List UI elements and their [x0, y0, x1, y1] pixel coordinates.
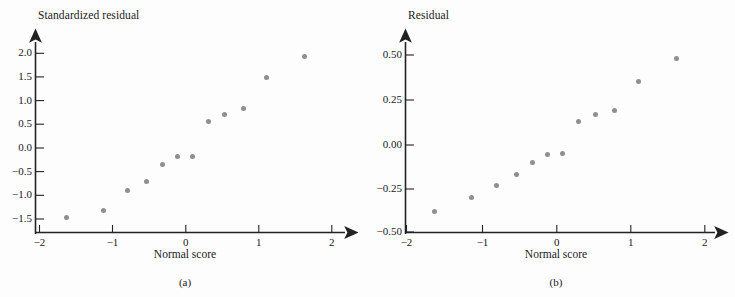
scatter-point: [612, 108, 617, 113]
scatter-point: [64, 215, 69, 220]
y-tick-label-a: 0.5: [18, 117, 32, 129]
scatter-point: [175, 154, 180, 159]
x-tick-label-a: 0: [166, 236, 206, 248]
x-tick-label-a: 1: [239, 236, 279, 248]
scatter-point: [560, 151, 565, 156]
y-tick-label-a: −1.0: [12, 188, 32, 200]
y-tick-label-b: −0.25: [377, 182, 402, 194]
x-tick-label-a: 2: [312, 236, 352, 248]
scatter-point: [206, 119, 211, 124]
scatter-point: [432, 209, 437, 214]
scatter-point: [514, 172, 519, 177]
plot-area-a: Standardized residual Normal score (a) −…: [0, 0, 367, 297]
scatter-point: [593, 112, 598, 117]
x-axis-title-a: Normal score: [125, 248, 245, 260]
x-axis-title-b: Normal score: [496, 248, 616, 260]
y-tick-label-a: −1.5: [12, 212, 32, 224]
x-tick-label-a: −1: [93, 236, 133, 248]
y-tick-label-a: 1.0: [18, 94, 32, 106]
y-axis-title-a: Standardized residual: [38, 9, 139, 21]
y-tick-label-a: 2.0: [18, 46, 32, 58]
scatter-point: [101, 208, 106, 213]
x-tick-label-b: 2: [685, 236, 725, 248]
scatter-point: [469, 195, 474, 200]
panel-a: Standardized residual Normal score (a) −…: [0, 0, 367, 297]
x-tick-label-b: −1: [463, 236, 503, 248]
scatter-point: [190, 154, 195, 159]
x-tick-label-b: −2: [387, 236, 427, 248]
y-tick-label-a: 0.0: [18, 141, 32, 153]
y-tick-label-b: 0.50: [383, 48, 402, 60]
plot-area-b: Residual Normal score (b) −0.50−0.250.00…: [368, 0, 735, 297]
y-tick-label-a: 1.5: [18, 70, 32, 82]
panel-caption-b: (b): [516, 276, 596, 288]
scatter-point: [302, 54, 307, 59]
x-tick-label-b: 0: [537, 236, 577, 248]
scatter-point: [222, 112, 227, 117]
panel-caption-a: (a): [145, 276, 225, 288]
x-tick-label-a: −2: [20, 236, 60, 248]
y-tick-label-b: 0.00: [383, 138, 402, 150]
y-axis-title-b: Residual: [408, 9, 449, 21]
figure-container: Standardized residual Normal score (a) −…: [0, 0, 735, 297]
panel-b: Residual Normal score (b) −0.50−0.250.00…: [368, 0, 735, 297]
x-tick-label-b: 1: [611, 236, 651, 248]
y-tick-label-b: 0.25: [383, 93, 402, 105]
y-tick-label-a: −0.5: [12, 165, 32, 177]
scatter-point: [530, 160, 535, 165]
